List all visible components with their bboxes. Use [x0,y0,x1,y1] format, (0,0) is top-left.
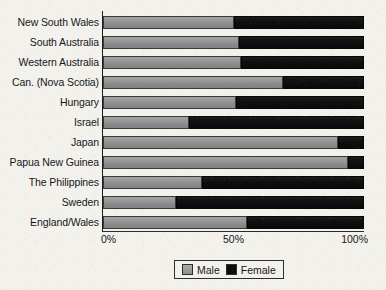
bar-segment-male [103,216,247,229]
bar-segment-male [103,156,348,169]
bar-segment-female [247,216,364,229]
category-label: Israel [0,116,99,129]
legend-label: Male [197,264,220,276]
category-axis-labels: New South WalesSouth AustraliaWestern Au… [0,11,99,231]
bar-segment-female [176,196,364,209]
female-swatch-icon [226,264,237,275]
bar-segment-male [103,116,189,129]
bar-segment-female [241,56,364,69]
bar-segment-female [283,76,364,89]
category-label: Sweden [0,196,99,209]
category-label: Japan [0,136,99,149]
bar-row [103,116,364,129]
bar-segment-female [234,16,364,29]
category-label: England/Wales [0,216,99,229]
bar-row [103,216,364,229]
x-tick-label-100: 100% [341,233,368,246]
category-label: New South Wales [0,16,99,29]
bar-segment-female [348,156,364,169]
bar-segment-male [103,176,202,189]
bar-segment-female [338,136,364,149]
bar-row [103,16,364,29]
x-axis-tick-labels: 0%50%100% [103,233,364,247]
bar-row [103,56,364,69]
bar-row [103,196,364,209]
bar-segment-female [202,176,364,189]
category-label: The Philippines [0,176,99,189]
stacked-bar-chart: New South WalesSouth AustraliaWestern Au… [0,0,386,290]
category-label: Papua New Guinea [0,156,99,169]
legend-item: Male [182,264,220,276]
bar-segment-male [103,16,234,29]
bar-segment-female [189,116,364,129]
bar-segment-female [236,96,364,109]
bar-segment-male [103,36,239,49]
category-label: South Australia [0,36,99,49]
x-axis-line [102,231,364,232]
male-swatch-icon [182,264,193,275]
bar-segment-female [239,36,364,49]
category-label: Western Australia [0,56,99,69]
category-label: Hungary [0,96,99,109]
bar-segment-male [103,56,241,69]
bar-row [103,36,364,49]
bar-row [103,156,364,169]
x-tick-label-0: 0% [101,233,116,246]
bar-row [103,136,364,149]
bar-row [103,96,364,109]
bar-row [103,176,364,189]
legend-item: Female [226,264,276,276]
bar-segment-male [103,136,338,149]
chart-legend: MaleFemale [174,260,284,279]
bar-segment-male [103,196,176,209]
bar-segment-male [103,76,283,89]
bar-row [103,76,364,89]
category-label: Can. (Nova Scotia) [0,76,99,89]
legend-label: Female [241,264,276,276]
bar-segment-male [103,96,236,109]
plot-area [103,11,364,231]
x-tick-label-50: 50% [223,233,244,246]
